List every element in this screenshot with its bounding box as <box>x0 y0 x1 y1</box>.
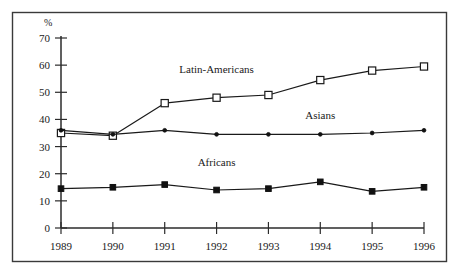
data-point-marker <box>420 63 427 70</box>
data-point-marker <box>265 91 272 98</box>
data-point-marker <box>161 100 168 107</box>
data-point-marker <box>214 187 220 193</box>
y-tick-label: 10 <box>39 195 51 207</box>
data-point-marker <box>110 184 116 190</box>
data-point-marker <box>370 131 374 135</box>
data-point-marker <box>318 132 322 136</box>
data-point-marker <box>59 128 63 132</box>
data-point-marker <box>111 132 115 136</box>
chart-outer-border <box>13 13 447 262</box>
data-point-marker <box>369 67 376 74</box>
data-point-marker <box>213 94 220 101</box>
series-label-latin-americans: Latin-Americans <box>179 63 254 75</box>
y-axis-unit-label: % <box>44 17 52 28</box>
y-tick-label: 20 <box>39 168 51 180</box>
y-tick-label: 50 <box>39 86 51 98</box>
data-point-marker <box>317 179 323 185</box>
y-tick-label: 0 <box>45 222 51 234</box>
series-polyline <box>61 67 424 136</box>
y-tick-label: 60 <box>39 59 51 71</box>
series-group <box>57 63 427 194</box>
y-tick-label: 30 <box>39 141 51 153</box>
series-label-africans: Africans <box>198 156 236 168</box>
y-tick-label: 40 <box>39 113 51 125</box>
series-africans <box>58 179 427 194</box>
x-tick-label: 1991 <box>154 240 176 252</box>
x-axis-ticks: 19891990199119921993199419951996 <box>50 222 436 252</box>
data-point-marker <box>317 76 324 83</box>
x-tick-label: 1990 <box>102 240 125 252</box>
x-tick-label: 1992 <box>206 240 228 252</box>
x-tick-label: 1996 <box>413 240 436 252</box>
data-point-marker <box>421 184 427 190</box>
data-point-marker <box>162 182 168 188</box>
x-tick-label: 1994 <box>309 240 332 252</box>
x-tick-label: 1993 <box>257 240 280 252</box>
data-point-marker <box>422 128 426 132</box>
data-point-marker <box>267 132 271 136</box>
series-annotation-labels: Latin-AmericansAsiansAfricans <box>179 63 335 167</box>
y-tick-label: 70 <box>39 32 51 44</box>
data-point-marker <box>369 189 375 195</box>
data-point-marker <box>266 186 272 192</box>
chart-container: % 010203040506070 1989199019911992199319… <box>0 0 460 277</box>
data-point-marker <box>215 132 219 136</box>
series-label-asians: Asians <box>305 109 335 121</box>
data-point-marker <box>58 186 64 192</box>
line-chart: % 010203040506070 1989199019911992199319… <box>0 0 460 277</box>
x-tick-label: 1989 <box>50 240 73 252</box>
data-point-marker <box>163 128 167 132</box>
x-tick-label: 1995 <box>361 240 384 252</box>
